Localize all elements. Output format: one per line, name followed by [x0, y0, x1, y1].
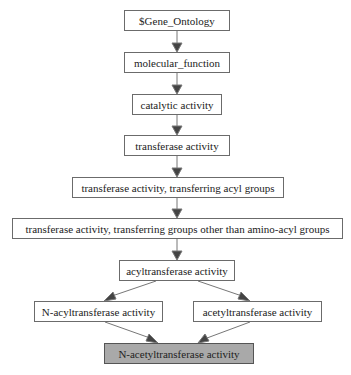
arrowhead-icon [238, 292, 250, 301]
arrowhead-icon [172, 168, 182, 177]
node-transferring-non-amino-acyl-groups[interactable]: transferase activity, transferring group… [12, 218, 343, 239]
arrowhead-icon [172, 85, 182, 94]
node-label: transferase activity, transferring group… [25, 223, 329, 235]
node-acetyltransferase-activity[interactable]: acetyltransferase activity [193, 301, 322, 322]
edge-n-acyl-to-n-acetyl [105, 322, 150, 338]
node-label: acyltransferase activity [126, 265, 228, 277]
arrowhead-icon [104, 292, 116, 301]
node-label: acetyltransferase activity [203, 306, 313, 318]
node-acyltransferase-activity[interactable]: acyltransferase activity [119, 260, 235, 281]
arrowhead-icon [172, 209, 182, 218]
edge-acyltransferase-to-n-acyl [112, 281, 156, 296]
node-label: N-acetyltransferase activity [118, 348, 239, 360]
arrowhead-icon [172, 43, 182, 52]
node-n-acetyltransferase-activity[interactable]: N-acetyltransferase activity [104, 343, 254, 364]
node-gene-ontology[interactable]: $Gene_Ontology [124, 10, 230, 31]
node-transferring-acyl-groups[interactable]: transferase activity, transferring acyl … [72, 177, 284, 198]
arrowhead-icon [146, 334, 158, 343]
node-label: $Gene_Ontology [139, 15, 215, 27]
node-transferase-activity[interactable]: transferase activity [124, 135, 230, 156]
node-label: molecular_function [134, 57, 220, 69]
node-label: transferase activity, transferring acyl … [81, 182, 274, 194]
arrowhead-icon [172, 126, 182, 135]
node-molecular-function[interactable]: molecular_function [124, 52, 230, 73]
edge-acetyl-to-n-acetyl [207, 322, 250, 338]
edge-acyltransferase-to-acetyl [198, 281, 242, 296]
node-label: N-acyltransferase activity [42, 306, 155, 318]
node-n-acyltransferase-activity[interactable]: N-acyltransferase activity [34, 301, 163, 322]
arrowhead-icon [198, 334, 209, 343]
node-catalytic-activity[interactable]: catalytic activity [132, 94, 222, 115]
arrowhead-icon [172, 251, 182, 260]
node-label: transferase activity [135, 140, 218, 152]
node-label: catalytic activity [141, 99, 214, 111]
